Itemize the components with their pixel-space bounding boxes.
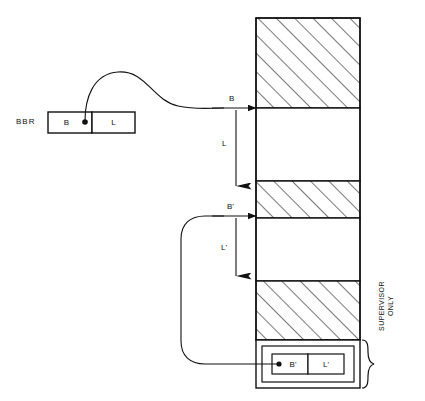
pointer-label-b: B <box>229 94 234 103</box>
memory-band-hatched-1 <box>256 18 360 108</box>
supervisor-brace <box>362 340 374 388</box>
diagram-canvas <box>0 0 425 401</box>
supervisor-only-annotation: SUPERVISOR ONLY <box>378 276 395 336</box>
bbr-register-label: BBR <box>16 117 35 126</box>
supervisor-field-b-prime-label: B' <box>284 360 302 369</box>
memory-band-white-2 <box>256 218 360 281</box>
bbr-field-l-label: L <box>92 118 135 127</box>
memory-band-white-1 <box>256 108 360 181</box>
pointer-label-b-prime: B' <box>227 202 234 211</box>
bbr-field-b-label: B <box>48 118 85 127</box>
memory-layout-diagram: BBR B L B L B' L' B' L' SUPERVISOR ONLY <box>0 0 425 401</box>
memory-band-hatched-2 <box>256 181 360 218</box>
pointer-label-l-prime: L' <box>221 243 227 252</box>
memory-column <box>256 18 360 340</box>
supervisor-field-l-prime-label: L' <box>317 360 335 369</box>
pointer-label-l: L <box>222 139 226 148</box>
memory-band-hatched-3 <box>256 281 360 340</box>
